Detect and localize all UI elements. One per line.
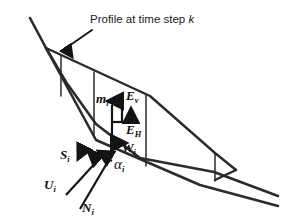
- slip-surface-line: [46, 48, 278, 196]
- force-arrow-ui: [66, 160, 98, 195]
- caption-leader-arrow: [66, 30, 92, 48]
- label-wi: Wi: [122, 140, 137, 157]
- force-arrow-si: [84, 147, 112, 161]
- label-alpha-i: αi: [114, 156, 125, 174]
- label-mi: mi: [96, 91, 109, 108]
- caption-symbol: k: [188, 13, 195, 25]
- figure-caption: Profile at time step k: [90, 13, 195, 25]
- caption-prefix: Profile at time step: [90, 13, 188, 25]
- slope-stability-figure: Profile at time step k mi Ev EH Wi Si Ui…: [0, 0, 288, 220]
- slope-diagram-canvas: Profile at time step k mi Ev EH Wi Si Ui…: [0, 0, 288, 220]
- current-profile-line: [46, 48, 236, 170]
- label-si: Si: [60, 147, 70, 164]
- label-eh: EH: [125, 122, 142, 139]
- label-ni: Ni: [81, 200, 94, 217]
- label-ui: Ui: [44, 177, 56, 194]
